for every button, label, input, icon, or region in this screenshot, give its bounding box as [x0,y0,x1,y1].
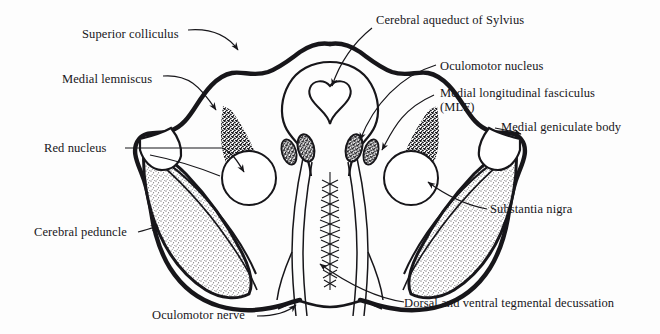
label-medial-geniculate-body: Medial geniculate body [501,120,621,134]
label-red-nucleus: Red nucleus [44,141,107,155]
cerebral-aqueduct-shape [309,81,350,124]
midbrain-cross-section-figure: Superior colliculus Medial lemniscus Red… [0,0,660,334]
label-medial-lemniscus: Medial lemniscus [62,72,152,86]
label-substantia-nigra: Substantia nigra [490,202,573,216]
label-dorsal-and-ventral-tegmental-decussation: Dorsal and ventral tegmental decussation [404,296,614,310]
medial-geniculate-body-shape [140,128,520,170]
label-superior-colliculus: Superior colliculus [82,27,179,41]
leader-medial-lemniscus [163,76,216,110]
leader-superior-colliculus [188,30,238,50]
label-cerebral-peduncle: Cerebral peduncle [34,225,127,239]
mlf-shape [279,138,382,167]
label-mlf-line-2: (MLF) [440,100,475,114]
label-mlf-line-1: Medial longitudinal fasciculus [440,86,595,100]
label-oculomotor-nucleus: Oculomotor nucleus [440,59,544,73]
oculomotor-nucleus-shape [295,132,365,163]
label-cerebral-aqueduct-of-sylvius: Cerebral aqueduct of Sylvius [376,13,524,27]
diagram-canvas [0,0,660,334]
label-oculomotor-nerve: Oculomotor nerve [152,308,245,322]
leader-tegmental-decussation [320,264,404,302]
tegmental-decussation-shape [320,172,340,290]
interpeduncular-fossa-floor [300,301,360,307]
